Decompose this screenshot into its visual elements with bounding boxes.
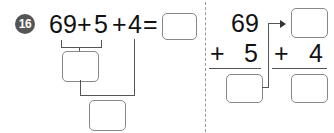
vertical-answer-box-2[interactable]	[291, 74, 328, 103]
intermediate-answer-box[interactable]	[62, 51, 99, 82]
vertical-plus-2: +	[274, 39, 289, 67]
connector-horizontal	[80, 95, 135, 96]
term-69: 69	[49, 9, 77, 39]
term-4: 4	[128, 9, 142, 39]
equals-sign: =	[143, 9, 158, 39]
result-answer-box[interactable]	[89, 100, 126, 131]
vertical-addend-4: 4	[309, 39, 323, 67]
connector-from-box	[80, 80, 81, 96]
dashed-divider	[205, 2, 206, 132]
sum-line-1	[209, 68, 261, 69]
vertical-plus-1: +	[210, 39, 225, 67]
sum-line-2	[272, 68, 327, 69]
final-answer-box[interactable]	[162, 13, 197, 40]
term-5: 5	[94, 9, 108, 39]
vertical-answer-box-1[interactable]	[226, 74, 263, 103]
arrow-connector-vertical	[268, 23, 269, 88]
vertical-answer-box-2-top[interactable]	[291, 8, 328, 38]
problem-number-badge: 16	[15, 14, 35, 34]
vertical-addend-5: 5	[244, 39, 258, 67]
bracket-bottom	[61, 47, 102, 48]
vertical-top-69: 69	[231, 9, 259, 37]
plus-sign-2: +	[112, 9, 127, 39]
plus-sign-1: +	[77, 9, 92, 39]
connector-from-4	[134, 39, 135, 96]
arrow-head-icon	[280, 20, 286, 28]
